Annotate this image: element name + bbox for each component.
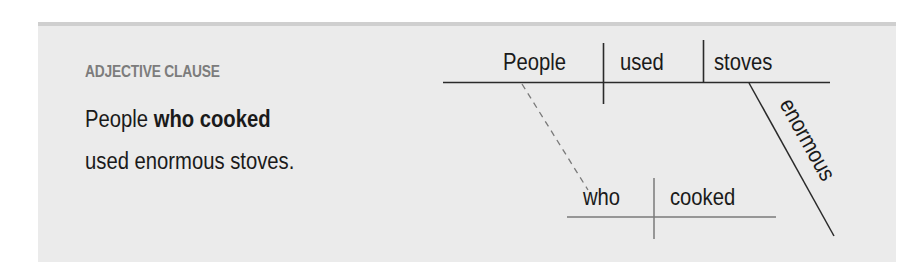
word-cooked: cooked [670, 184, 735, 211]
word-who: who [582, 184, 620, 211]
word-stoves: stoves [714, 49, 773, 76]
relative-connector-dashed [522, 84, 588, 190]
word-enormous: enormous [774, 94, 841, 186]
sentence-diagram: People used stoves enormous who cooked [0, 0, 922, 262]
word-used: used [620, 49, 664, 76]
word-people: People [503, 49, 566, 76]
